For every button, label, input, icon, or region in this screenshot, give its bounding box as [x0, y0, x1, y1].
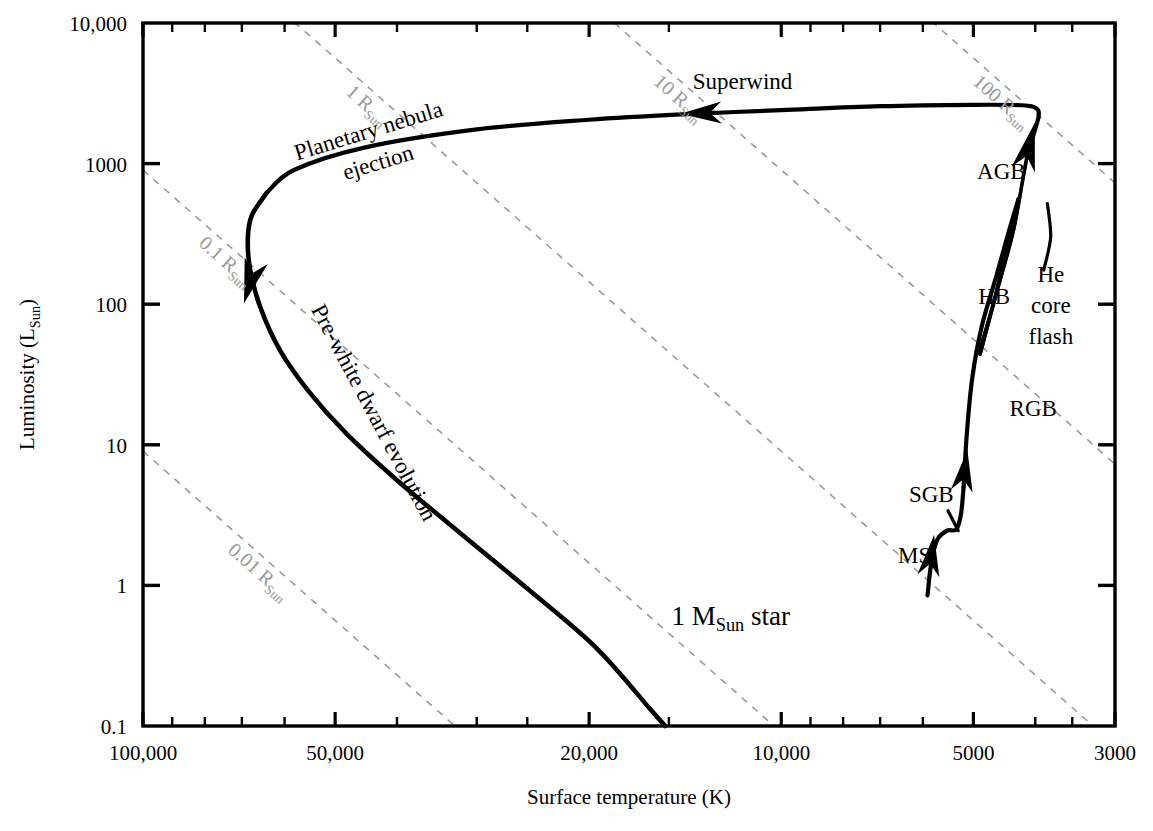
svg-text:AGB: AGB [977, 159, 1026, 184]
svg-text:SGB: SGB [909, 482, 954, 507]
radius-line-0.1 [143, 170, 775, 726]
radius-label-100: 100 RSun [966, 70, 1035, 136]
x-tick-label-3: 10,000 [752, 741, 810, 765]
annotation-rgb: RGB [1010, 396, 1057, 421]
plot-border [143, 23, 1115, 726]
annotation-sgb: SGB [909, 482, 954, 507]
annotation-hb: HB [978, 284, 1010, 309]
annotation-star-mass: 1 MSun star [671, 601, 790, 635]
axis-ticks [143, 23, 1115, 726]
sgb-leader-line [948, 511, 958, 531]
svg-text:He: He [1037, 262, 1064, 287]
y-tick-label-1: 1000 [85, 153, 127, 177]
y-tick-label-3: 10 [106, 434, 127, 458]
x-tick-label-2: 20,000 [560, 741, 618, 765]
svg-text:0.01 RSun: 0.01 RSun [222, 538, 295, 607]
x-tick-label-1: 50,000 [306, 741, 364, 765]
svg-text:HB: HB [978, 284, 1010, 309]
svg-text:Luminosity (LSun): Luminosity (LSun) [15, 299, 43, 450]
hr-diagram-svg: 100,00050,00020,00010,0005000300010,0001… [0, 0, 1153, 831]
y-tick-label-4: 1 [117, 574, 128, 598]
annotation-agb: AGB [977, 159, 1026, 184]
annotation-he-core-flash: Hecoreflash [1029, 262, 1074, 349]
annotation-ms: MS [898, 543, 931, 568]
y-tick-label-5: 0.1 [101, 715, 127, 739]
svg-text:flash: flash [1029, 324, 1074, 349]
svg-text:100 RSun: 100 RSun [966, 70, 1035, 136]
x-tick-label-4: 5000 [952, 741, 994, 765]
y-tick-label-2: 100 [96, 293, 128, 317]
svg-text:MS: MS [898, 543, 931, 568]
chart-annotations: Planetary nebulaejectionPre-white dwarf … [291, 69, 1074, 635]
track-planetary-nebula-ejection-descent [248, 193, 665, 726]
svg-text:core: core [1031, 293, 1071, 318]
x-tick-label-0: 100,000 [109, 741, 177, 765]
svg-text:Superwind: Superwind [693, 69, 793, 94]
annotation-superwind: Superwind [693, 69, 793, 94]
radius-label-0.01: 0.01 RSun [222, 538, 295, 607]
hr-diagram-figure: 100,00050,00020,00010,0005000300010,0001… [0, 0, 1153, 831]
x-axis-title: Surface temperature (K) [527, 785, 731, 809]
y-tick-label-0: 10,000 [69, 12, 127, 36]
y-axis-title: Luminosity (LSun) [15, 299, 43, 450]
he-core-flash-pointer [1044, 204, 1051, 271]
radius-reference-lines [143, 23, 1115, 726]
svg-text:RGB: RGB [1010, 396, 1057, 421]
svg-text:1 MSun star: 1 MSun star [671, 601, 790, 635]
plot-frame [143, 23, 1115, 726]
x-tick-label-5: 3000 [1094, 741, 1136, 765]
